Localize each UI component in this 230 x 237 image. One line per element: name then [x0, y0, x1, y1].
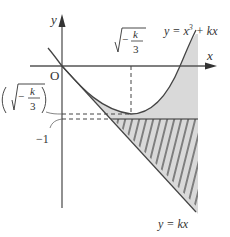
minus-one-label: −1: [36, 132, 49, 146]
leader-minus-one: [50, 119, 62, 128]
line-label: y = kx: [157, 217, 189, 231]
svg-text:3: 3: [133, 43, 139, 55]
svg-text:3: 3: [30, 100, 36, 112]
x-axis-label: x: [206, 48, 213, 63]
y-axis-label: y: [49, 12, 57, 27]
y-min-label: − k 3: [2, 84, 46, 113]
y-axis-arrow-icon: [59, 14, 66, 27]
leader-min-value: [46, 112, 62, 114]
svg-text:k: k: [133, 28, 139, 40]
origin-label: O: [50, 68, 59, 83]
curve-label: y = x3 + kx: [163, 23, 218, 38]
svg-text:−: −: [18, 90, 24, 102]
svg-text:−: −: [122, 33, 128, 45]
function-graph: y x O − k 3 y = x3 + kx − k 3 −1 y = kx: [0, 0, 230, 237]
svg-text:y = x3 + kx: y = x3 + kx: [163, 23, 218, 38]
x-axis-arrow-icon: [205, 63, 217, 70]
svg-text:k: k: [30, 85, 36, 97]
x-min-label: − k 3: [115, 28, 146, 55]
